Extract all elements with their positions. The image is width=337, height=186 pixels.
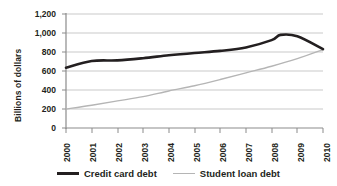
legend-label-student-loan-debt: Student loan debt bbox=[200, 168, 280, 179]
legend-item-credit-card-debt: Credit card debt bbox=[57, 168, 157, 179]
plot-area bbox=[0, 0, 337, 186]
legend-label-credit-card-debt: Credit card debt bbox=[84, 168, 157, 179]
legend-swatch-credit-card-debt bbox=[57, 172, 79, 175]
x-axis-line bbox=[66, 128, 323, 133]
series-line-student-loan-debt bbox=[66, 50, 323, 109]
y-axis-line bbox=[62, 13, 66, 129]
chart-legend: Credit card debt Student loan debt bbox=[0, 168, 337, 179]
legend-swatch-student-loan-debt bbox=[173, 173, 195, 174]
legend-item-student-loan-debt: Student loan debt bbox=[173, 168, 280, 179]
line-chart: Billions of dollars 1,200 1,000 800 600 … bbox=[0, 0, 337, 186]
